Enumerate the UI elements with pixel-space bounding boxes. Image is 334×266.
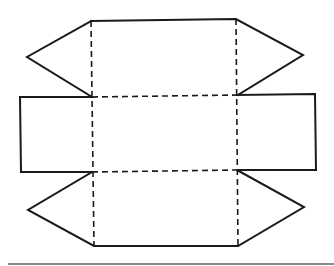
net-svg (0, 0, 334, 266)
fold-lines (91, 19, 238, 246)
prism-net-diagram (0, 0, 334, 266)
fold-line (92, 170, 237, 172)
fold-line (236, 19, 238, 246)
net-outline (20, 19, 316, 246)
fold-line (91, 21, 94, 246)
fold-line (92, 95, 238, 97)
